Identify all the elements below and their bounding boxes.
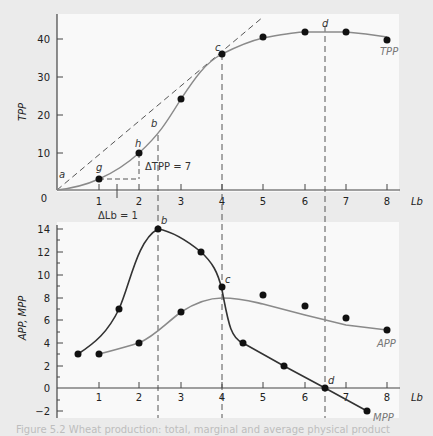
production-charts: 10 20 30 40 0 1 2 3 4 5 6 7 8 Lb TPP — [0, 0, 433, 436]
top-y-axis-label: TPP — [17, 102, 28, 121]
bottom-y-axis-label: APP, MPP — [17, 295, 28, 342]
top-y-tick: 30 — [37, 72, 50, 83]
top-y-tick: 40 — [37, 34, 50, 45]
bottom-x-tick: 6 — [302, 392, 308, 403]
bottom-x-axis-label: Lb — [411, 392, 423, 403]
point-h-label: h — [135, 138, 141, 149]
bottom-x-tick: 1 — [96, 392, 102, 403]
delta-tpp-annotation: ΔTPP = 7 — [145, 161, 191, 172]
top-x-tick: 8 — [384, 196, 390, 207]
point-a-label: a — [59, 169, 65, 180]
bottom-x-tick: 3 — [178, 392, 184, 403]
delta-lb-annotation: ΔLb = 1 — [98, 210, 138, 221]
point-c-label-bottom: c — [225, 274, 231, 285]
bottom-y-tick: 12 — [37, 247, 50, 258]
point-d-label: d — [322, 18, 329, 29]
point-b-label-bottom: b — [161, 215, 167, 226]
top-y-tick: 20 — [37, 110, 50, 121]
bottom-y-tick: 8 — [44, 293, 50, 304]
tpp-series-label: TPP — [380, 46, 399, 57]
bottom-y-tick: 10 — [37, 270, 50, 281]
point-d-label-bottom: d — [328, 375, 335, 386]
top-x-tick: 5 — [260, 196, 266, 207]
bottom-x-tick: 2 — [136, 392, 142, 403]
bottom-x-tick: 5 — [260, 392, 266, 403]
bottom-y-tick: 6 — [44, 315, 50, 326]
bottom-y-tick: 14 — [37, 224, 50, 235]
bottom-x-tick: 8 — [384, 392, 390, 403]
point-g-label: g — [96, 162, 102, 173]
bottom-y-tick: 4 — [44, 338, 50, 349]
top-x-tick: 2 — [136, 196, 142, 207]
mpp-series-label: MPP — [373, 412, 395, 423]
top-x-tick: 7 — [343, 196, 349, 207]
top-x-tick: 1 — [96, 196, 102, 207]
bottom-y-tick: −2 — [35, 406, 50, 417]
app-series-label: APP — [376, 338, 397, 349]
top-x-tick: 6 — [302, 196, 308, 207]
point-c-label: c — [215, 42, 221, 53]
bottom-y-tick: 0 — [44, 383, 50, 394]
top-x-axis-label: Lb — [411, 196, 423, 207]
bottom-x-tick: 4 — [219, 392, 225, 403]
figure-caption: Figure 5.2 Wheat production: total, marg… — [16, 424, 390, 435]
top-x-tick: 3 — [178, 196, 184, 207]
point-b-label: b — [151, 118, 157, 129]
bottom-y-tick: 2 — [44, 361, 50, 372]
top-panel — [57, 14, 399, 192]
top-origin-label: 0 — [41, 193, 47, 204]
top-y-tick: 10 — [37, 148, 50, 159]
